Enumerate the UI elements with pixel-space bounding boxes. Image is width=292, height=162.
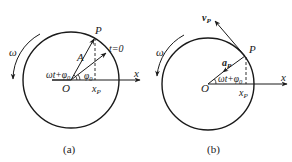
phi0-label-a: φ0: [84, 71, 93, 82]
x-axis-label-a: x: [133, 67, 139, 79]
x-axis-label-b: x: [280, 71, 286, 83]
figure-b: ω vP P aP ωt+φ0 O x xP (b): [156, 12, 287, 156]
rotating-vector-diagram: ω P A t=0 ωt+φ0 φ0 O x xP (a) ω vP P aP …: [0, 0, 292, 162]
t0-label-a: t=0: [109, 43, 124, 54]
velocity-vector-b: [215, 21, 245, 56]
origin-label-b: O: [201, 82, 209, 94]
omega-rotation-arrow-a: [13, 34, 40, 79]
amplitude-label-a: A: [76, 51, 84, 63]
acceleration-label-b: aP: [222, 57, 232, 70]
origin-label-a: O: [62, 82, 70, 94]
phase-label-a: ωt+φ0: [46, 70, 71, 81]
xp-label-a: xP: [91, 83, 101, 96]
phase-angle-arc-b: [215, 79, 217, 84]
omega-label-b: ω: [156, 46, 164, 58]
velocity-label-b: vP: [202, 12, 211, 25]
caption-a: (a): [63, 143, 76, 156]
phi0-angle-arc-a: [78, 75, 80, 81]
omega-label-a: ω: [9, 46, 17, 58]
figure-a: ω P A t=0 ωt+φ0 φ0 O x xP (a): [9, 24, 140, 156]
point-p-label-b: P: [248, 43, 256, 55]
phase-label-b: ωt+φ0: [218, 74, 243, 85]
caption-b: (b): [207, 143, 220, 156]
point-p-label-a: P: [94, 24, 102, 36]
xp-label-b: xP: [238, 87, 248, 100]
